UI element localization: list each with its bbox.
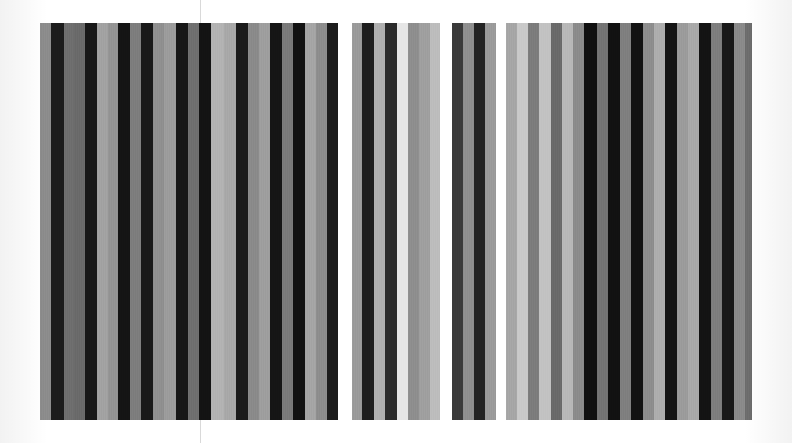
stripe <box>631 23 643 420</box>
stripe <box>643 23 654 420</box>
stripe <box>677 23 688 420</box>
stripe <box>51 23 64 420</box>
stripe <box>64 23 74 420</box>
panel-1 <box>40 23 338 420</box>
stripe <box>665 23 677 420</box>
stripe <box>130 23 141 420</box>
stripe <box>408 23 419 420</box>
stripe <box>430 23 440 420</box>
stripe <box>620 23 631 420</box>
stripe <box>164 23 176 420</box>
stripe <box>419 23 430 420</box>
stripe <box>352 23 362 420</box>
stripe <box>153 23 164 420</box>
stripe <box>551 23 562 420</box>
stripe <box>118 23 130 420</box>
stripe <box>74 23 85 420</box>
stripe <box>485 23 496 420</box>
stripe <box>374 23 385 420</box>
stripe <box>188 23 199 420</box>
stripe <box>141 23 153 420</box>
stripe <box>584 23 597 420</box>
stripe <box>199 23 211 420</box>
panel-2 <box>352 23 440 420</box>
stripe <box>305 23 316 420</box>
stripe <box>562 23 573 420</box>
stripe <box>259 23 270 420</box>
panel-4 <box>506 23 752 420</box>
stripe <box>40 23 51 420</box>
stripe <box>688 23 699 420</box>
stripe <box>97 23 108 420</box>
stripe <box>236 23 248 420</box>
stripe <box>293 23 305 420</box>
stripe <box>362 23 374 420</box>
stripe <box>699 23 711 420</box>
stripe <box>517 23 528 420</box>
stripe <box>474 23 485 420</box>
stripe <box>654 23 665 420</box>
stripe <box>506 23 517 420</box>
stripe <box>385 23 397 420</box>
stripe <box>211 23 223 420</box>
stripe <box>327 23 338 420</box>
stripe <box>539 23 551 420</box>
stripe <box>597 23 608 420</box>
stripe <box>573 23 584 420</box>
stripe <box>248 23 259 420</box>
stripe <box>108 23 118 420</box>
stripe <box>722 23 734 420</box>
stripe <box>745 23 752 420</box>
stripe <box>224 23 236 420</box>
stripe <box>316 23 327 420</box>
stripe <box>734 23 745 420</box>
stripe <box>452 23 463 420</box>
stripe <box>397 23 408 420</box>
artwork-canvas <box>0 0 792 443</box>
stripe <box>711 23 722 420</box>
stripe <box>85 23 97 420</box>
stripe <box>176 23 188 420</box>
stripe <box>270 23 282 420</box>
stripe <box>463 23 474 420</box>
stripe <box>608 23 620 420</box>
stripe <box>528 23 539 420</box>
stripe <box>282 23 293 420</box>
panel-3 <box>452 23 496 420</box>
